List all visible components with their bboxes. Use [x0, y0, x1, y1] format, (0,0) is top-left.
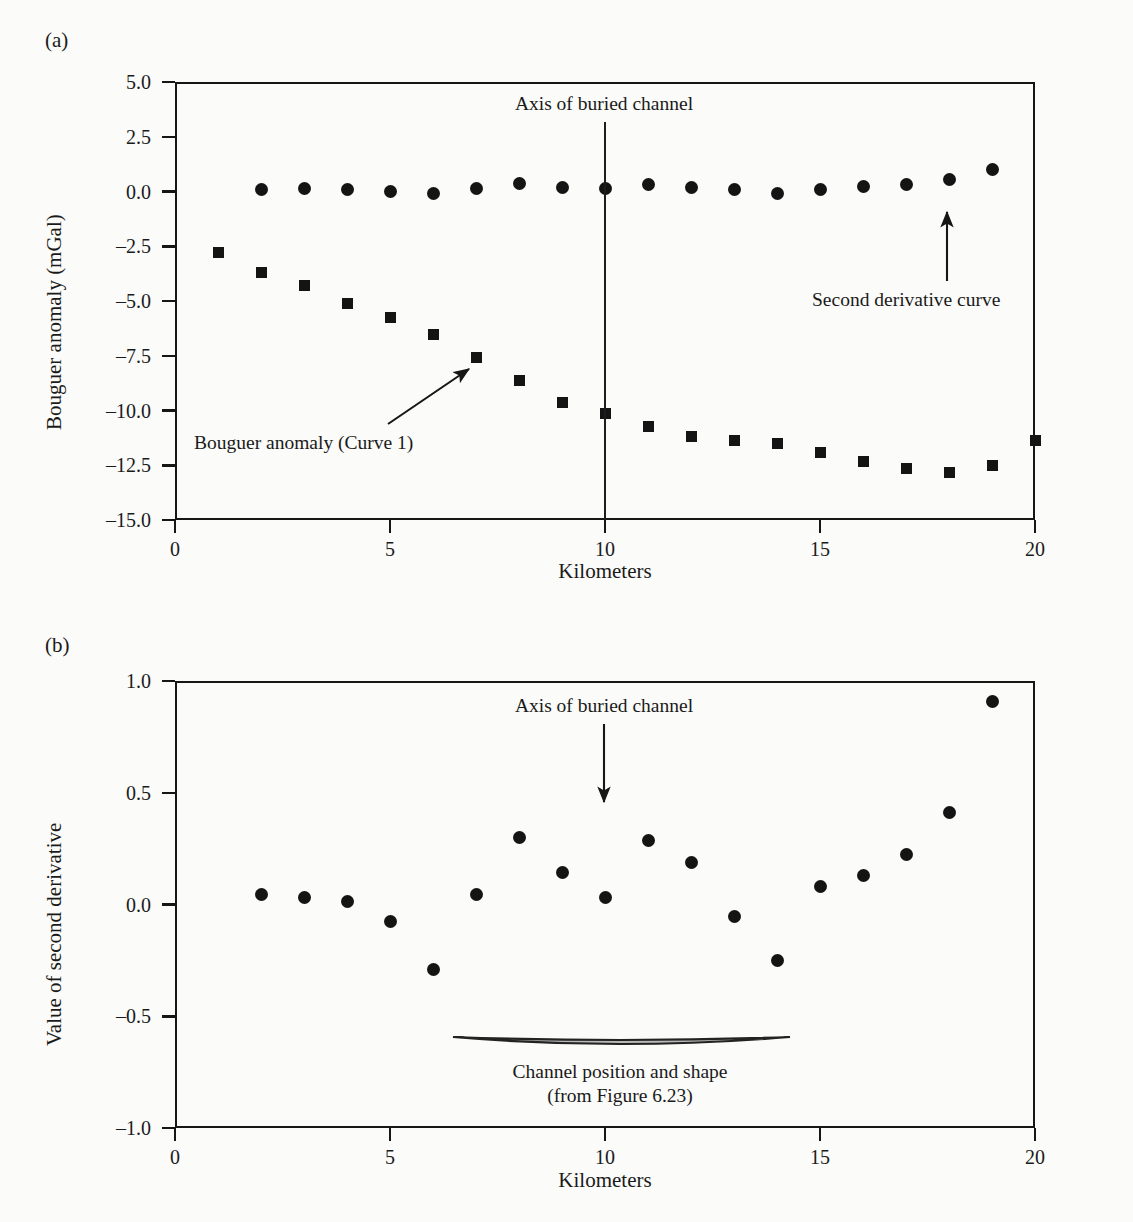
panel-b-channel-shape [453, 1037, 790, 1044]
panel-a: (a) Bouguer anomaly (mGal) Kilometers 5.… [0, 0, 1133, 600]
panel-b: (b) Value of second derivative Kilometer… [0, 600, 1133, 1222]
panel-a-arrows [0, 0, 1133, 600]
panel-a-arrow-bouguer-curve [388, 369, 469, 424]
figure-root: (a) Bouguer anomaly (mGal) Kilometers 5.… [0, 0, 1133, 1222]
panel-b-overlay [0, 600, 1133, 1222]
